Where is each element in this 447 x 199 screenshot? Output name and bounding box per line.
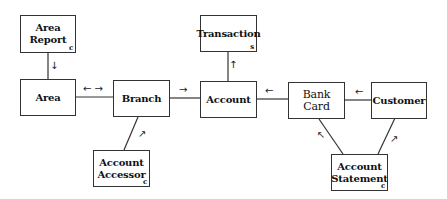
node-bank-card[interactable]: Bank Card bbox=[288, 82, 345, 119]
arrow-up-icon: ↑ bbox=[229, 60, 237, 70]
node-label: Account bbox=[206, 94, 250, 106]
arrow-right-icon: → bbox=[179, 85, 187, 95]
node-customer[interactable]: Customer bbox=[371, 82, 427, 119]
arrow-left-icon: ← bbox=[265, 86, 273, 96]
node-label: Customer bbox=[373, 95, 426, 107]
node-label: Accessor bbox=[98, 169, 146, 180]
node-transaction[interactable]: Transaction s bbox=[200, 15, 257, 52]
stereotype-tag: c bbox=[143, 178, 147, 186]
node-account-statement[interactable]: AccountStatement c bbox=[331, 154, 388, 191]
arrow-bidirectional-icon: ← → bbox=[83, 84, 103, 94]
node-label: Statement bbox=[331, 173, 387, 184]
node-account[interactable]: Account bbox=[200, 81, 257, 118]
arrow-up-right-icon: ↗ bbox=[390, 134, 398, 144]
node-label: Account bbox=[99, 157, 143, 168]
node-label: Area bbox=[35, 92, 60, 104]
stereotype-tag: s bbox=[250, 43, 254, 51]
stereotype-tag: c bbox=[69, 44, 73, 52]
stereotype-tag: c bbox=[381, 182, 385, 190]
node-area-report[interactable]: AreaReport c bbox=[20, 15, 76, 53]
arrow-up-right-icon: ↗ bbox=[138, 129, 146, 139]
node-label: Bank Card bbox=[289, 89, 344, 113]
node-area[interactable]: Area bbox=[20, 79, 76, 116]
node-account-accessor[interactable]: AccountAccessor c bbox=[93, 150, 150, 187]
node-label: Account bbox=[337, 161, 381, 172]
node-label: Report bbox=[29, 34, 66, 45]
node-label: Transaction bbox=[196, 28, 260, 40]
arrow-down-icon: ↓ bbox=[50, 61, 58, 71]
node-label: Area bbox=[35, 22, 60, 33]
node-label: Branch bbox=[122, 93, 162, 105]
node-branch[interactable]: Branch bbox=[113, 80, 170, 117]
arrow-left-icon: ← bbox=[355, 87, 363, 97]
arrow-up-left-icon: ↖ bbox=[317, 130, 325, 140]
